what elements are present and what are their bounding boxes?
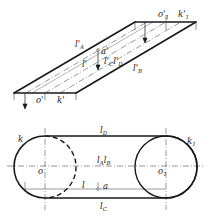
centerline-1	[26, 22, 147, 93]
label-lC: lC	[100, 201, 108, 212]
top-view: o'1 k'1 l'A a' l' l'Cl'D l'B o' k'	[14, 9, 196, 109]
label-o: o	[38, 166, 43, 176]
label-lA-lB: lAlB	[97, 155, 110, 166]
arrowhead	[96, 65, 100, 70]
label-lD: lD	[100, 125, 108, 136]
label-l-prime: l'	[82, 59, 87, 69]
label-k1-prime: k'1	[178, 9, 189, 20]
arrowhead	[23, 104, 27, 109]
label-lA-prime: l'A	[75, 39, 84, 50]
projection-diagram: o'1 k'1 l'A a' l' l'Cl'D l'B o' k' lD k …	[0, 0, 212, 222]
label-lB-prime: l'B	[133, 63, 142, 74]
centerline-3	[60, 22, 181, 93]
label-o-prime: o'	[36, 95, 43, 105]
edge-lB	[76, 22, 196, 93]
label-k1: k1	[187, 136, 196, 147]
label-k: k	[18, 134, 23, 144]
point-a-prime	[97, 49, 100, 52]
label-k-prime: k'	[57, 95, 65, 105]
label-l: l	[82, 180, 85, 190]
label-o1-prime: o'1	[158, 9, 169, 20]
label-a: a	[103, 181, 108, 191]
point-a	[97, 188, 100, 191]
label-a-prime: a'	[101, 46, 108, 56]
bottom-view: lD k k1 lAlB o o1 l a lC	[7, 125, 205, 212]
label-o1: o1	[158, 166, 167, 177]
